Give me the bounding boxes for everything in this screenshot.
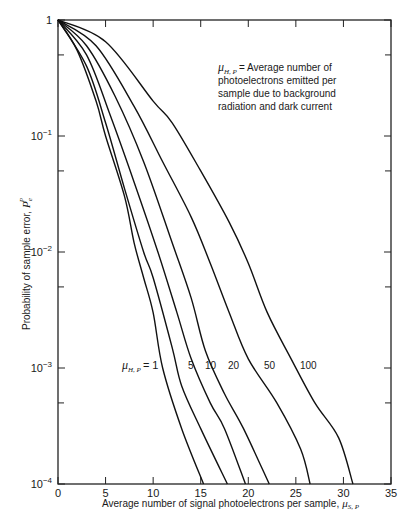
legend-label-1: μH, P= 1 xyxy=(121,358,158,374)
legend-label-10: 10 xyxy=(205,360,217,371)
x-axis-title: Average number of signal photoelectrons … xyxy=(102,497,360,511)
y-tick-label: 10−2 xyxy=(31,244,53,258)
annotation-line-3: sample due to background xyxy=(218,88,336,99)
annotation-line-2: photoelectrons emitted per xyxy=(218,75,337,86)
axis-ticks: 05101520253035110−110−210−310−4 xyxy=(31,14,398,499)
y-axis-title: Probability of sample error,PeP xyxy=(18,197,34,330)
legend-label-5: 5 xyxy=(188,360,194,371)
y-tick-label: 10−3 xyxy=(31,360,53,374)
y-tick-label: 10−4 xyxy=(31,476,53,490)
curve-mu-5 xyxy=(58,20,227,484)
x-tick-label: 0 xyxy=(55,487,61,499)
legend-label-50: 50 xyxy=(264,360,276,371)
curve-mu-1 xyxy=(58,20,204,484)
error-probability-chart: 05101520253035110−110−210−310−4 μH, P= A… xyxy=(0,0,411,517)
legend-label-100: 100 xyxy=(300,360,317,371)
y-tick-label: 1 xyxy=(46,14,52,26)
annotation-line-1: μH, P= Average number of xyxy=(217,60,332,76)
annotation-line-4: radiation and dark current xyxy=(218,101,332,112)
x-tick-label: 35 xyxy=(385,487,397,499)
y-tick-label: 10−1 xyxy=(31,128,53,142)
legend-label-20: 20 xyxy=(228,360,240,371)
